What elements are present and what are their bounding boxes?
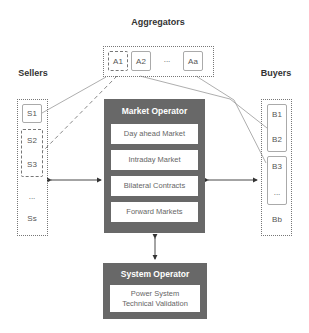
s1-aggregator-line — [42, 77, 106, 113]
seller-ss[interactable]: Ss — [21, 214, 43, 223]
seller-s2[interactable]: S2 — [21, 136, 43, 145]
seller-s3[interactable]: S3 — [21, 160, 43, 169]
function-line-2: Technical Validation — [122, 299, 188, 309]
system-operator-function[interactable]: Power System Technical Validation — [110, 285, 200, 312]
buyer-ellipsis: ... — [266, 188, 288, 197]
buyer-b2[interactable]: B2 — [266, 135, 288, 144]
market-bilateral-contracts[interactable]: Bilateral Contracts — [111, 176, 198, 196]
system-operator-box: System Operator Power System Technical V… — [103, 263, 207, 319]
seller-s1[interactable]: S1 — [22, 104, 42, 123]
function-line-1: Power System — [131, 289, 179, 299]
buyers-title: Buyers — [251, 68, 301, 78]
buyer-bb[interactable]: Bb — [266, 215, 288, 224]
aggregator-a1[interactable]: A1 — [108, 51, 128, 71]
seller-ellipsis: ... — [21, 192, 43, 201]
aa-buyer-line — [196, 76, 266, 163]
market-day-ahead[interactable]: Day ahead Market — [111, 124, 198, 144]
buyer-b1[interactable]: B1 — [266, 110, 288, 119]
sellers-title: Sellers — [8, 68, 58, 78]
aggregator-aa[interactable]: Aa — [183, 51, 203, 71]
system-operator-title: System Operator — [103, 269, 207, 279]
aggregators-title: Aggregators — [108, 17, 208, 27]
buyer-b3[interactable]: B3 — [266, 162, 288, 171]
market-intraday[interactable]: Intraday Market — [111, 150, 198, 170]
market-forward[interactable]: Forward Markets — [111, 202, 198, 222]
aggregator-ellipsis: ... — [155, 55, 179, 64]
market-operator-title: Market Operator — [104, 106, 205, 116]
aggregator-a2[interactable]: A2 — [131, 51, 151, 71]
market-operator-box: Market Operator Day ahead Market Intrada… — [104, 99, 205, 233]
